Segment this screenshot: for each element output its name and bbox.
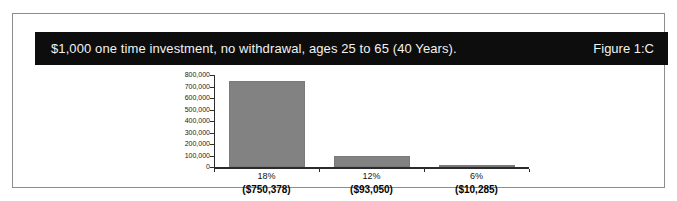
x-axis-tick-mark — [424, 169, 425, 172]
y-axis-tick-labels: 800,000700,000600,000500,000400,000300,0… — [153, 70, 210, 167]
bar — [229, 81, 305, 167]
x-axis-line — [214, 167, 529, 169]
figure-frame: $1,000 one time investment, no withdrawa… — [12, 13, 665, 188]
x-axis-category-labels: 18%($750,378)12%($93,050)6%($10,285) — [214, 171, 529, 201]
x-axis-category-rate: 12% — [319, 171, 424, 182]
x-axis-tick-mark — [529, 169, 530, 172]
y-axis-tick-label: 400,000 — [153, 117, 210, 125]
y-axis-tick-label: 700,000 — [153, 83, 210, 91]
bar-chart: 800,000700,000600,000500,000400,000300,0… — [153, 70, 543, 200]
y-axis-tick-label: 200,000 — [153, 140, 210, 148]
figure-header-band: $1,000 one time investment, no withdrawa… — [35, 32, 668, 65]
y-axis-tick-label: 300,000 — [153, 129, 210, 137]
x-axis-category: 12%($93,050) — [319, 171, 424, 196]
y-axis-tick-label: 100,000 — [153, 152, 210, 160]
bar — [334, 156, 410, 167]
y-axis-tick-label: 500,000 — [153, 106, 210, 114]
figure-number-label: Figure 1:C — [593, 41, 654, 56]
x-axis-category-amount: ($10,285) — [424, 183, 529, 196]
y-axis-tick-label: 600,000 — [153, 94, 210, 102]
x-axis-tick-mark — [214, 169, 215, 172]
figure-title: $1,000 one time investment, no withdrawa… — [51, 41, 457, 56]
x-axis-category: 6%($10,285) — [424, 171, 529, 196]
x-axis-category-rate: 6% — [424, 171, 529, 182]
x-axis-tick-mark — [319, 169, 320, 172]
x-axis-category: 18%($750,378) — [214, 171, 319, 196]
plot-area — [214, 75, 529, 167]
y-axis-tick-label: 0 — [153, 163, 210, 171]
x-axis-category-amount: ($750,378) — [214, 183, 319, 196]
x-axis-category-rate: 18% — [214, 171, 319, 182]
y-axis-tick-label: 800,000 — [153, 71, 210, 79]
x-axis-category-amount: ($93,050) — [319, 183, 424, 196]
